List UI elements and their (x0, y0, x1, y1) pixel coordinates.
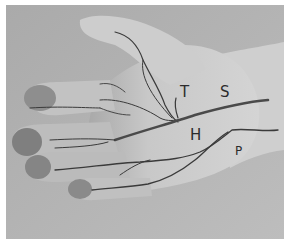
label-t: T (179, 83, 190, 101)
label-s: S (220, 83, 230, 101)
little-fingertip (68, 179, 92, 199)
ring-fingertip (25, 155, 51, 179)
middle-fingertip (12, 128, 42, 156)
hand-illustration: T S H P (0, 0, 288, 244)
label-p: P (235, 144, 242, 158)
label-h: H (190, 126, 201, 144)
hand-photo: T S H P (0, 0, 288, 244)
